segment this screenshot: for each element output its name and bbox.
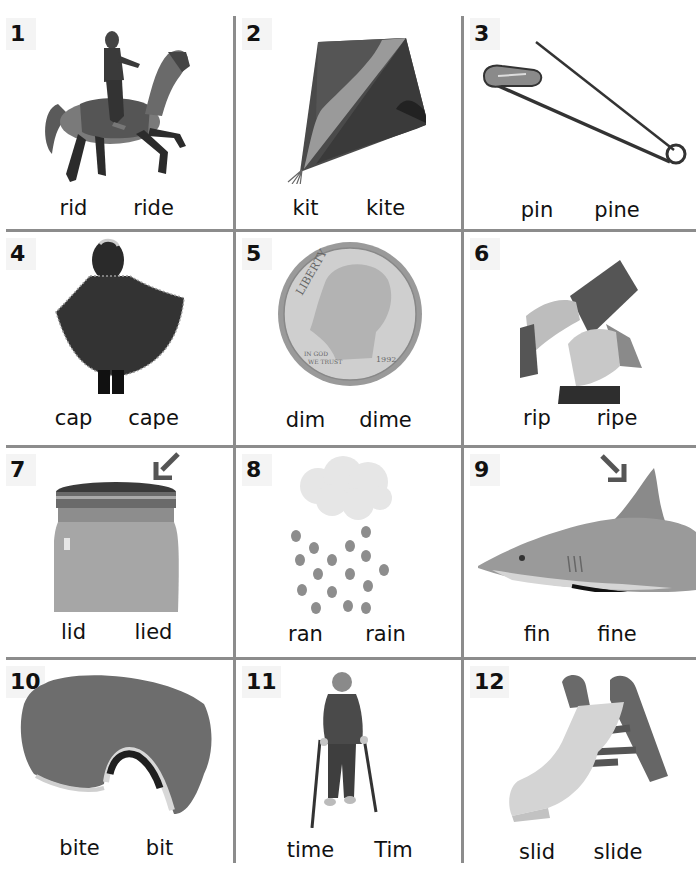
- item-number: 2: [242, 18, 272, 50]
- svg-text:WE TRUST: WE TRUST: [308, 358, 342, 365]
- word-option-long[interactable]: kite: [343, 196, 429, 220]
- ripping-paper-image: [520, 246, 650, 406]
- boy-with-crutches-image: [306, 668, 386, 828]
- word-option-long[interactable]: ripe: [574, 406, 660, 430]
- shark-image: [472, 462, 696, 592]
- item-card-12: 12 slid slide: [464, 660, 696, 870]
- word-option-short[interactable]: slid: [499, 840, 575, 864]
- word-choices: time Tim: [236, 838, 461, 862]
- word-choices: rip ripe: [464, 406, 696, 430]
- word-option-first[interactable]: time: [266, 838, 356, 862]
- item-card-9: 9 fin fine: [464, 448, 696, 657]
- phonics-worksheet: 1: [0, 0, 696, 880]
- sandwich-image: [14, 664, 214, 824]
- word-option-short[interactable]: fin: [500, 622, 574, 646]
- word-option-short[interactable]: cap: [37, 406, 111, 430]
- item-card-4: 4 cap cape: [0, 232, 233, 445]
- word-choices: kit kite: [236, 196, 461, 220]
- item-card-5: 5 LIBERTY IN GOD WE TRUST 1992 dim dime: [236, 232, 461, 445]
- word-choices: dim dime: [236, 408, 461, 432]
- svg-text:1992: 1992: [376, 355, 396, 364]
- word-option-long[interactable]: rain: [343, 622, 429, 646]
- word-option-short[interactable]: dim: [269, 408, 343, 432]
- word-choices: bite bit: [0, 836, 233, 860]
- word-option-short[interactable]: lid: [37, 620, 111, 644]
- kite-image: [286, 24, 426, 184]
- word-choices: cap cape: [0, 406, 233, 430]
- word-option-short[interactable]: pin: [500, 198, 574, 222]
- word-option-long[interactable]: fine: [574, 622, 660, 646]
- word-choices: fin fine: [464, 622, 696, 646]
- word-option-first[interactable]: bite: [37, 836, 123, 860]
- svg-text:IN GOD: IN GOD: [304, 350, 328, 357]
- dime-coin-image: LIBERTY IN GOD WE TRUST 1992: [276, 240, 426, 390]
- word-option-short[interactable]: ran: [269, 622, 343, 646]
- word-option-long[interactable]: cape: [111, 406, 197, 430]
- word-choices: slid slide: [464, 840, 696, 864]
- item-number: 11: [242, 666, 281, 698]
- item-card-3: 3 pin pine: [464, 12, 696, 229]
- rain-cloud-image: [288, 456, 408, 616]
- item-number: 5: [242, 238, 272, 270]
- item-card-2: 2 kit kite: [236, 12, 461, 229]
- word-choices: pin pine: [464, 198, 696, 222]
- item-card-8: 8 ran: [236, 448, 461, 657]
- playground-slide-image: [500, 672, 680, 822]
- item-number: 7: [6, 454, 36, 486]
- jar-lid-image: [54, 482, 180, 612]
- cape-image: [50, 238, 190, 398]
- item-card-10: 10 bite bit: [0, 660, 233, 870]
- item-number: 4: [6, 238, 36, 270]
- item-card-1: 1: [0, 12, 233, 229]
- word-option-short[interactable]: rip: [500, 406, 574, 430]
- word-choices: lid lied: [0, 620, 233, 644]
- word-option-long[interactable]: pine: [574, 198, 660, 222]
- item-card-7: 7 lid lied: [0, 448, 233, 657]
- word-option-long[interactable]: slide: [575, 840, 661, 864]
- item-card-6: 6 rip ripe: [464, 232, 696, 445]
- word-choices: rid ride: [0, 196, 233, 220]
- word-option-long[interactable]: dime: [343, 408, 429, 432]
- word-option-long[interactable]: ride: [111, 196, 197, 220]
- word-option-short[interactable]: rid: [37, 196, 111, 220]
- item-card-11: 11 time Tim: [236, 660, 461, 870]
- item-number: 6: [470, 238, 500, 270]
- arrow-pointer-icon: [152, 452, 182, 480]
- word-option-second[interactable]: bit: [123, 836, 197, 860]
- item-number: 1: [6, 18, 36, 50]
- word-option-short[interactable]: kit: [269, 196, 343, 220]
- word-option-second[interactable]: Tim: [356, 838, 432, 862]
- word-option-long[interactable]: lied: [111, 620, 197, 644]
- word-choices: ran rain: [236, 622, 461, 646]
- item-number: 8: [242, 454, 272, 486]
- safety-pin-image: [474, 32, 694, 172]
- horse-rider-image: [40, 24, 200, 194]
